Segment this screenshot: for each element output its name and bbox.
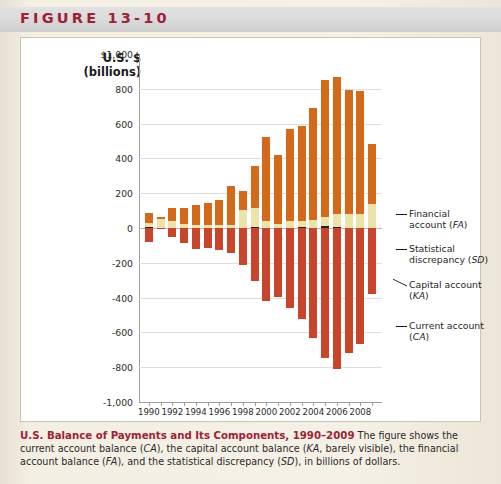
segment-ca-1994 — [192, 228, 200, 249]
x-tick-mark-2009 — [372, 402, 373, 406]
segment-sd-2002 — [286, 221, 294, 228]
bar-2002 — [286, 54, 294, 402]
x-tick-mark-1999 — [255, 402, 256, 406]
segment-ca-1999 — [251, 228, 259, 281]
callout-ca-abbr: CA — [413, 331, 426, 342]
bar-2008 — [356, 54, 364, 402]
segment-ca-2006 — [333, 228, 341, 369]
bar-2001 — [274, 54, 282, 402]
x-tick-mark-1998 — [243, 402, 244, 406]
y-tick-200: 200 — [115, 188, 133, 199]
callout-sd-line2: discrepancy (SD) — [409, 254, 493, 265]
segment-ca-1991 — [157, 228, 165, 229]
bar-1994 — [192, 54, 200, 402]
segment-ca-2007 — [345, 228, 353, 353]
segment-ca-1998 — [239, 228, 247, 265]
segment-fa-1992 — [168, 208, 176, 221]
bar-2005 — [321, 54, 329, 402]
segment-fa-2002 — [286, 129, 294, 221]
bar-1995 — [204, 54, 212, 402]
segment-sd-2005 — [321, 217, 329, 225]
figure-caption: U.S. Balance of Payments and Its Compone… — [20, 429, 482, 469]
x-tick-mark-1990 — [149, 402, 150, 406]
x-tick-mark-2008 — [360, 402, 361, 406]
segment-ca-2008 — [356, 228, 364, 344]
callout-fa-line1: Financial — [409, 208, 493, 219]
y-tick--1000: -1,000 — [103, 397, 133, 408]
callout-ka-abbr: KA — [413, 290, 425, 301]
segment-sd-2000 — [262, 221, 270, 228]
bar-1998 — [239, 54, 247, 402]
segment-ca-1997 — [227, 228, 235, 253]
segment-fa-2007 — [345, 90, 353, 214]
x-tick-mark-2007 — [349, 402, 350, 406]
x-tick-2006: 2006 — [326, 407, 348, 417]
segment-ca-2000 — [262, 228, 270, 301]
caption-abbr-fa: FA — [106, 456, 118, 467]
segment-sd-2003 — [298, 221, 306, 228]
chart-callouts: Financialaccount (FA)Statisticaldiscrepa… — [393, 38, 482, 423]
segment-sd-1992 — [168, 221, 176, 228]
x-tick-2000: 2000 — [255, 407, 277, 417]
callout-ca: Current account(CA) — [409, 320, 493, 343]
segment-ca-2005 — [321, 228, 329, 358]
segment-ca-1992 — [168, 228, 176, 237]
callout-ca-line1: Current account — [409, 320, 493, 331]
leader-line-fa — [396, 214, 407, 215]
x-tick-mark-2003 — [302, 402, 303, 406]
segment-fa-2005 — [321, 80, 329, 217]
segment-fa-1994 — [192, 205, 200, 224]
callout-sd: Statisticaldiscrepancy (SD) — [409, 243, 493, 266]
callout-ka-line1: Capital account — [409, 279, 493, 290]
y-tick--800: -800 — [112, 362, 133, 373]
segment-sd-1998 — [239, 210, 247, 227]
bar-1999 — [251, 54, 259, 402]
y-tick-0: 0 — [127, 223, 133, 234]
callout-sd-abbr: SD — [471, 254, 484, 265]
y-axis-title-line2: (billions) — [55, 65, 141, 79]
caption-title: U.S. Balance of Payments and Its Compone… — [20, 430, 354, 441]
segment-sd-1991 — [157, 219, 165, 228]
segment-fa-1998 — [239, 191, 247, 210]
x-tick-mark-1992 — [172, 402, 173, 406]
bar-2004 — [309, 54, 317, 402]
bar-2000 — [262, 54, 270, 402]
callout-fa-line2: account (FA) — [409, 219, 493, 230]
x-tick-mark-2001 — [278, 402, 279, 406]
segment-fa-2003 — [298, 126, 306, 220]
x-tick-1994: 1994 — [185, 407, 207, 417]
callout-sd-line1: Statistical — [409, 243, 493, 254]
x-tick-mark-1996 — [219, 402, 220, 406]
x-tick-1996: 1996 — [208, 407, 230, 417]
segment-fa-1990 — [145, 213, 153, 223]
chart-card: U.S. $ (billions) $1,0008006004002000-20… — [20, 37, 481, 422]
callout-fa-abbr: FA — [453, 219, 464, 230]
segment-fa-1995 — [204, 203, 212, 225]
x-axis-line — [139, 402, 382, 403]
x-tick-mark-1994 — [196, 402, 197, 406]
y-tick-400: 400 — [115, 153, 133, 164]
callout-fa: Financialaccount (FA) — [409, 208, 493, 231]
x-tick-mark-2005 — [325, 402, 326, 406]
bar-1992 — [168, 54, 176, 402]
segment-fa-2004 — [309, 108, 317, 220]
segment-ca-2001 — [274, 228, 282, 297]
segment-fa-1997 — [227, 186, 235, 225]
bar-1991 — [157, 54, 165, 402]
caption-abbr-sd: SD — [281, 456, 294, 467]
x-tick-1992: 1992 — [161, 407, 183, 417]
segment-ca-1990 — [145, 228, 153, 242]
bar-2003 — [298, 54, 306, 402]
segment-sd-2006 — [333, 214, 341, 228]
x-tick-mark-2000 — [266, 402, 267, 406]
callout-ka: Capital account(KA) — [409, 279, 493, 302]
figure-label: FIGURE 13-10 — [20, 10, 170, 26]
segment-ca-1993 — [180, 228, 188, 243]
y-tick-1000: $1,000 — [100, 49, 133, 60]
segment-sd-2008 — [356, 214, 364, 228]
x-tick-mark-1993 — [184, 402, 185, 406]
segment-ca-1996 — [215, 228, 223, 250]
segment-ca-1995 — [204, 228, 212, 248]
segment-sd-2004 — [309, 220, 317, 227]
x-tick-mark-1995 — [208, 402, 209, 406]
